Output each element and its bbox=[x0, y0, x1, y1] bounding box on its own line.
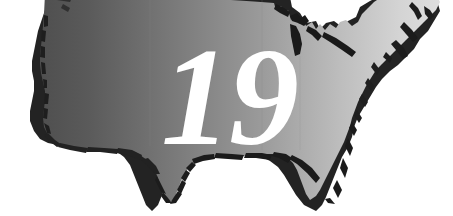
us-map-graphic bbox=[0, 0, 453, 216]
graphic-canvas: 19 Map of the continental United States … bbox=[0, 0, 453, 216]
us-landmass bbox=[40, 0, 440, 202]
